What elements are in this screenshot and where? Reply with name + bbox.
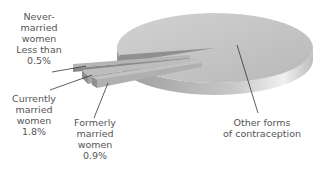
label-line: women — [72, 139, 118, 150]
label-never-married: Never- married women Less than 0.5% — [16, 11, 62, 66]
label-line: Never- — [16, 11, 62, 22]
label-formerly-married: Formerly married women 0.9% — [72, 117, 118, 161]
label-line: Other forms — [222, 117, 302, 128]
label-line: married — [72, 128, 118, 139]
leader-line-formerly-married — [94, 83, 108, 118]
label-line: women — [10, 115, 58, 126]
label-line: 1.8% — [10, 126, 58, 137]
label-other-contraception: Other forms of contraception — [222, 117, 302, 139]
label-line: married — [16, 22, 62, 33]
label-line: of contraception — [222, 128, 302, 139]
leader-line-currently-married — [50, 75, 92, 90]
label-line: 0.9% — [72, 150, 118, 161]
label-line: Formerly — [72, 117, 118, 128]
label-line: 0.5% — [16, 55, 62, 66]
label-line: married — [10, 104, 58, 115]
label-line: women — [16, 33, 62, 44]
label-currently-married: Currently married women 1.8% — [10, 93, 58, 137]
label-line: Less than — [16, 44, 62, 55]
label-line: Currently — [10, 93, 58, 104]
